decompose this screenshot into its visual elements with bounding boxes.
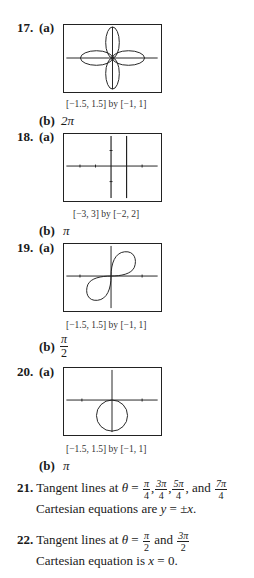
and-text: , and — [185, 480, 214, 495]
part-a-label: (a) — [39, 364, 54, 380]
problem-number: 21. — [17, 480, 33, 495]
denominator: 4 — [215, 490, 227, 501]
fraction: 3π2 — [177, 530, 189, 553]
fraction: 7π4 — [215, 478, 227, 501]
text: Cartesian equations are — [36, 501, 161, 516]
text: = 0. — [154, 553, 178, 568]
numerator: π — [143, 530, 150, 542]
part-b-label: (b) — [39, 458, 55, 474]
part-a-label: (a) — [39, 129, 54, 145]
problem-22-line1: 22. Tangent lines at θ = π2 and 3π2 — [17, 530, 190, 553]
part-b-label: (b) — [39, 113, 55, 129]
window-caption: [−1.5, 1.5] by [−1, 1] — [66, 444, 146, 454]
denominator: 2 — [177, 542, 189, 553]
part-a-label: (a) — [39, 240, 54, 256]
graph-19 — [63, 243, 162, 312]
equals: = — [128, 532, 142, 547]
problem-21-line2: Cartesian equations are y = ±x. — [36, 501, 196, 516]
problem-number: 18. — [17, 129, 33, 145]
answer-b-fraction: π 2 — [60, 333, 68, 360]
denominator: 2 — [143, 542, 150, 553]
vertical-line-plot — [64, 134, 161, 201]
numerator: π — [60, 333, 68, 347]
graph-17 — [63, 24, 162, 93]
window-caption: [−1.5, 1.5] by [−1, 1] — [66, 320, 146, 330]
comma: , — [168, 480, 171, 495]
text: Cartesian equation is — [36, 553, 148, 568]
denominator: 2 — [60, 347, 68, 360]
numerator: 7π — [215, 478, 227, 490]
part-a-label: (a) — [39, 20, 54, 36]
period: . — [193, 501, 196, 516]
window-caption: [−3, 3] by [−2, 2] — [73, 209, 139, 219]
and-text: and — [151, 532, 176, 547]
part-b-label: (b) — [39, 339, 55, 355]
denominator: 4 — [155, 490, 167, 501]
fraction: 3π4 — [155, 478, 167, 501]
problem-number: 20. — [17, 364, 33, 380]
comma: , — [151, 480, 154, 495]
problem-number: 22. — [17, 532, 33, 547]
window-caption: [−1.5, 1.5] by [−1, 1] — [66, 99, 146, 109]
numerator: 5π — [172, 478, 184, 490]
graph-20 — [63, 367, 162, 436]
rose-plot — [64, 25, 161, 92]
part-b-label: (b) — [39, 223, 55, 239]
two-loop-plot — [64, 244, 161, 311]
answer-b: π — [63, 223, 70, 239]
circle-plot — [64, 368, 161, 435]
graph-18 — [63, 133, 162, 202]
numerator: 3π — [177, 530, 189, 542]
numerator: 3π — [155, 478, 167, 490]
denominator: 4 — [143, 490, 150, 501]
fraction: 5π4 — [172, 478, 184, 501]
problem-number: 19. — [17, 240, 33, 256]
text: = ± — [166, 501, 187, 516]
fraction: π2 — [143, 530, 150, 553]
text: Tangent lines at — [36, 480, 121, 495]
text: Tangent lines at — [36, 532, 121, 547]
problem-22-line2: Cartesian equation is x = 0. — [36, 553, 178, 568]
answer-b: 2π — [61, 113, 74, 129]
fraction: π4 — [143, 478, 150, 501]
numerator: π — [143, 478, 150, 490]
problem-number: 17. — [17, 20, 33, 36]
denominator: 4 — [172, 490, 184, 501]
answer-b: π — [63, 458, 70, 474]
problem-21-line1: 21. Tangent lines at θ = π4,3π4,5π4, and… — [17, 478, 228, 501]
equals: = — [128, 480, 142, 495]
